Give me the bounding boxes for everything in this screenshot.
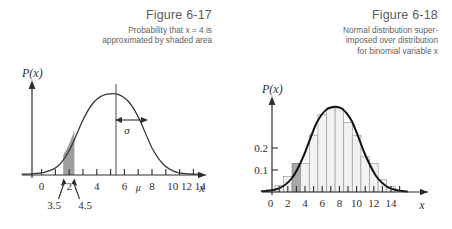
y-axis-arrowhead <box>29 80 36 89</box>
x-axis-title-right: x <box>418 198 425 212</box>
x-tick-label-right-10: 10 <box>351 197 363 209</box>
x-tick-label-right-8: 8 <box>337 197 343 209</box>
normal-curve <box>22 94 202 175</box>
x-tick-label-right-2: 2 <box>285 197 291 209</box>
x-tick-label-right-4: 4 <box>302 197 308 209</box>
y-tick-label-0.1: 0.1 <box>254 164 268 176</box>
bar-11 <box>352 135 361 192</box>
bar-7 <box>318 115 327 192</box>
figure-6-17-pane: Figure 6-17 Probability that x = 4 is ap… <box>0 0 226 229</box>
bar-10 <box>344 123 353 193</box>
histogram-bars <box>266 108 395 192</box>
figure-6-18-svg: P(x) x 0.2 0.1 0 2 4 6 8 10 12 14 <box>226 0 452 229</box>
x-tick-label-right-14: 14 <box>386 197 398 209</box>
y-axis-arrowhead-right <box>269 96 276 105</box>
bar-6 <box>309 135 318 192</box>
figure-6-17-plot: σ P(x) x 0 2 4 6 μ 8 10 12 14 3.5 4.5 <box>0 0 226 229</box>
shaded-area-3.5-to-4.5 <box>63 131 74 176</box>
x-tick-label-mu: μ <box>135 182 141 193</box>
figure-6-17-svg: σ P(x) x 0 2 4 6 μ 8 10 12 14 3.5 4.5 <box>0 0 226 229</box>
bar-9 <box>335 108 344 192</box>
figure-6-18-plot: P(x) x 0.2 0.1 0 2 4 6 8 10 12 14 <box>226 0 452 229</box>
lower-bound-label: 3.5 <box>47 199 61 211</box>
y-tick-label-0.2: 0.2 <box>254 142 268 154</box>
y-axis-title-left: P(x) <box>21 66 43 80</box>
y-axis-title-right: P(x) <box>261 82 283 96</box>
x-tick-label-8: 8 <box>149 180 155 192</box>
x-tick-label-6: 6 <box>122 180 128 192</box>
upper-bound-label: 4.5 <box>78 199 92 211</box>
y-major-ticks-right <box>272 148 278 170</box>
x-tick-label-0: 0 <box>39 180 45 192</box>
x-axis-arrowhead <box>198 172 206 178</box>
x-tick-label-right-0: 0 <box>268 197 274 209</box>
x-tick-label-2: 2 <box>66 180 72 192</box>
x-tick-label-right-12: 12 <box>368 197 379 209</box>
sigma-arrowhead-right <box>141 117 148 123</box>
x-tick-label-10: 10 <box>167 180 179 192</box>
sigma-label: σ <box>124 124 130 136</box>
bar-8 <box>327 108 336 192</box>
x-tick-label-12: 12 <box>181 180 192 192</box>
figure-6-18-pane: Figure 6-18 Normal distribution super- i… <box>226 0 452 229</box>
x-tick-label-4: 4 <box>94 180 100 192</box>
x-tick-label-right-6: 6 <box>319 197 325 209</box>
x-axis-arrowhead-right <box>420 189 428 195</box>
x-tick-label-14: 14 <box>195 180 207 192</box>
